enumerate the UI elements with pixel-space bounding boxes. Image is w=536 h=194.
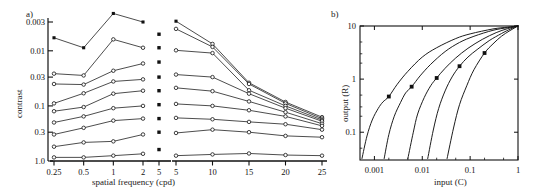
panel-b-y-tick-label: 10 [348, 21, 357, 31]
panel-a-point-open [211, 153, 215, 157]
panel-b-x-axis-title: input (C) [434, 177, 467, 187]
panel-a-point-open [284, 115, 288, 119]
panel-a-point-open [284, 122, 288, 126]
panel-b-marker-3 [435, 76, 439, 80]
panel-a-point-open [141, 152, 145, 156]
panel-a-y-tick-label: 1.0 [34, 156, 45, 166]
panel-b-marker-1 [387, 95, 391, 99]
panel-a-series-5-left [54, 91, 143, 112]
figure-root: 0.0030.010.030.10.31.00.250.512551015202… [0, 0, 536, 194]
panel-a-point-open [52, 102, 56, 106]
panel-a-point-mid [157, 46, 160, 49]
panel-a-point-open [211, 51, 215, 55]
panel-a-point-mid [157, 117, 160, 120]
panel-b-marker-5 [483, 51, 487, 55]
panel-a-x-tick-label-left: 0.5 [78, 167, 89, 177]
panel-a-tag: a) [26, 9, 33, 19]
panel-b-y-tick-label: 0.1 [345, 127, 356, 137]
panel-a-point-open [247, 109, 251, 113]
panel-a-series-2-left [54, 39, 143, 75]
panel-a-point-open [141, 133, 145, 137]
panel-a-point-open [82, 115, 86, 119]
panel-b-marker-2 [410, 85, 414, 89]
panel-a-point-mid [157, 75, 160, 78]
panel-a-point-open [320, 135, 324, 139]
panel-a-point-open [82, 74, 86, 78]
panel-a-point-open [112, 154, 116, 158]
panel-a-x-tick-label-left: 0.25 [47, 167, 62, 177]
panel-a-x-tick-label-right: 5 [174, 167, 178, 177]
panel-a-point-open [141, 62, 145, 66]
panel-a-point-open [211, 89, 215, 93]
panel-a-point-open [141, 78, 145, 82]
panel-b-x-tick-label: 1 [516, 165, 520, 175]
panel-a-point-open [174, 154, 178, 158]
panel-a-point-open [82, 83, 86, 87]
panel-b-curve-3 [408, 26, 518, 159]
panel-a-x-tick-label-left: 1 [111, 167, 115, 177]
panel-b-x-tick-label: 0.01 [415, 165, 430, 175]
panel-a-point-open [284, 153, 288, 157]
panel-a-point-filled [174, 20, 177, 23]
panel-a-point-open [174, 27, 178, 31]
panel-a-point-open [82, 126, 86, 130]
panel-a-point-mid [157, 89, 160, 92]
panel-a-point-mid [157, 103, 160, 106]
panel-a-point-open [82, 156, 86, 160]
panel-a-series-1-left [54, 13, 143, 47]
panel-b-tag: b) [331, 9, 339, 19]
panel-a-point-open [174, 49, 178, 53]
panel-a-point-open [141, 89, 145, 93]
panel-a-point-open [52, 72, 56, 76]
panel-a-point-open [141, 46, 145, 50]
panel-a-point-open [284, 134, 288, 138]
panel-a-point-open [141, 104, 145, 108]
panel-b-y-axis-title: output (R) [340, 85, 350, 122]
figure-canvas: 0.0030.010.030.10.31.00.250.512551015202… [0, 0, 536, 194]
panel-a-point-open [247, 89, 251, 93]
panel-a-point-filled [112, 12, 115, 15]
panel-a-point-open [112, 140, 116, 144]
panel-a-x-tick-label-right: 15 [245, 167, 254, 177]
panel-a-point-open [211, 128, 215, 132]
panel-a-point-open [320, 154, 324, 158]
panel-a-point-open [112, 119, 116, 123]
panel-a-point-open [174, 86, 178, 90]
panel-a-point-open [52, 133, 56, 137]
panel-a-point-mid [157, 60, 160, 63]
panel-a-point-open [141, 117, 145, 121]
panel-a-point-open [82, 92, 86, 96]
panel-a-point-open [52, 82, 56, 86]
panel-a-point-open [211, 104, 215, 108]
panel-a-y-tick-label: 0.03 [30, 72, 45, 82]
panel-a-series-6-left [54, 106, 143, 123]
panel-a-y-axis-title: contrast [14, 90, 24, 119]
panel-a-y-tick-label: 0.1 [34, 101, 45, 111]
panel-b-curve-4 [428, 26, 518, 159]
panel-b-x-tick-label: 0.001 [365, 165, 384, 175]
panel-a-series-3-left [54, 64, 143, 85]
panel-a-point-mid [157, 148, 160, 151]
panel-a-point-open [247, 152, 251, 156]
panel-a-point-mid [157, 33, 160, 36]
panel-a-x-tick-label-right: 20 [281, 167, 290, 177]
panel-a-point-open [247, 120, 251, 124]
panel-a-point-open [211, 75, 215, 79]
panel-a-point-open [247, 130, 251, 134]
panel-a-point-open [284, 110, 288, 114]
panel-a-point-open [112, 69, 116, 73]
panel-b-y-tick-label: 1 [352, 74, 356, 84]
panel-a-point-open [247, 100, 251, 104]
panel-a-series-8-left [54, 134, 143, 146]
panel-a-point-open [52, 109, 56, 113]
panel-a-series-9-left [54, 154, 143, 158]
panel-a-point-open [320, 124, 324, 128]
panel-a-point-open [112, 92, 116, 96]
panel-a-point-open [112, 106, 116, 110]
panel-a-x-tick-label-right: 10 [208, 167, 217, 177]
panel-a-x-tick-label-left: 2 [141, 167, 145, 177]
panel-a-point-open [52, 145, 56, 149]
panel-b-x-tick-label: 0.1 [465, 165, 476, 175]
panel-a-point-open [52, 156, 56, 160]
panel-a-point-open [82, 141, 86, 145]
